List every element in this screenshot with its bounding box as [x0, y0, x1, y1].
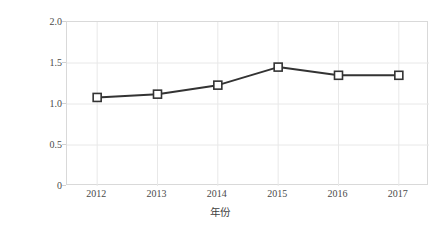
- data-point-marker: [274, 63, 282, 71]
- y-axis-tick-mark: [62, 185, 66, 186]
- x-axis-title: 年份: [0, 204, 439, 219]
- y-axis-tick-label: 0: [28, 180, 62, 191]
- x-axis-tick-label: 2017: [375, 188, 421, 199]
- y-axis-tick-mark: [62, 144, 66, 145]
- y-axis-tick-label: 1.5: [28, 57, 62, 68]
- data-point-marker: [214, 81, 222, 89]
- y-axis-tick-label: 2.0: [28, 16, 62, 27]
- y-axis-tick-label: 1.0: [28, 98, 62, 109]
- line-chart: 浓度/（mg/L） 00.51.01.52.0 2012201320142015…: [0, 0, 439, 228]
- x-axis-tick-label: 2012: [73, 188, 119, 199]
- plot-canvas: [67, 22, 429, 186]
- y-axis-tick-mark: [62, 62, 66, 63]
- data-point-marker: [154, 90, 162, 98]
- data-point-marker: [395, 71, 403, 79]
- y-axis-tick-mark: [62, 103, 66, 104]
- plot-area: [66, 21, 428, 185]
- x-axis-tick-label: 2016: [315, 188, 361, 199]
- series-line: [97, 67, 399, 97]
- x-axis-tick-label: 2013: [134, 188, 180, 199]
- data-point-marker: [335, 71, 343, 79]
- x-axis-tick-label: 2014: [194, 188, 240, 199]
- y-axis-tick-labels: 00.51.01.52.0: [26, 0, 62, 228]
- x-axis-tick-label: 2015: [254, 188, 300, 199]
- y-axis-tick-mark: [62, 21, 66, 22]
- data-point-marker: [93, 93, 101, 101]
- y-axis-tick-label: 0.5: [28, 139, 62, 150]
